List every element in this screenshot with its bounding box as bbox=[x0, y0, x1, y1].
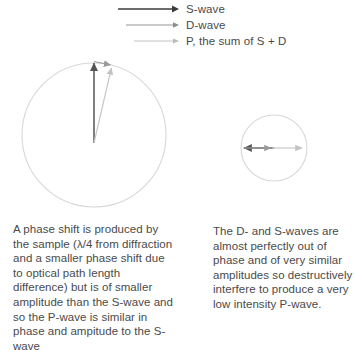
right-panel-caption: The D- and S-waves are almost perfectly … bbox=[213, 224, 353, 312]
arrow-right-icon bbox=[134, 36, 180, 46]
right-panel-group bbox=[241, 115, 307, 181]
legend-label-d-wave: D-wave bbox=[186, 19, 226, 32]
phase-contrast-diagram-figure: S-wave D-wave P, the sum of S + D A phas… bbox=[0, 0, 355, 350]
legend: S-wave D-wave P, the sum of S + D bbox=[118, 0, 355, 56]
legend-item-s-wave: S-wave bbox=[118, 1, 225, 17]
legend-item-p-wave: P, the sum of S + D bbox=[134, 33, 286, 49]
arrow-right-icon bbox=[126, 20, 180, 30]
arrow-right-icon bbox=[118, 4, 180, 14]
legend-label-s-wave: S-wave bbox=[186, 3, 225, 16]
legend-item-d-wave: D-wave bbox=[126, 17, 226, 33]
left-panel-caption: A phase shift is produced by the sample … bbox=[13, 222, 176, 350]
left-panel-group bbox=[22, 62, 166, 208]
legend-label-p-wave: P, the sum of S + D bbox=[186, 35, 286, 48]
left-panel-p-wave-vector bbox=[94, 68, 111, 143]
